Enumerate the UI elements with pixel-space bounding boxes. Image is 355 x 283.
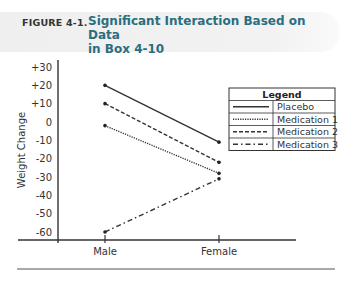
x-tick-label: Male (93, 246, 117, 257)
data-point (103, 230, 107, 234)
legend-label: Medication 1 (277, 114, 338, 125)
legend-title: Legend (262, 89, 301, 100)
data-point (103, 124, 107, 128)
y-tick-label: -10 (36, 135, 52, 146)
data-point (217, 161, 221, 165)
series-line-medication-1 (105, 126, 219, 174)
data-point (217, 172, 221, 176)
data-point (217, 177, 221, 181)
y-axis-label: Weight Change (16, 112, 27, 188)
legend-label: Medication 2 (277, 126, 338, 137)
y-tick-label: 0 (46, 117, 52, 128)
y-tick-label: +10 (31, 98, 52, 109)
legend-label: Medication 3 (277, 139, 338, 150)
series-line-medication-3 (105, 179, 219, 232)
data-point (103, 84, 107, 88)
series-line-placebo (105, 85, 219, 142)
x-tick-label: Female (201, 246, 237, 257)
y-tick-label: +20 (31, 80, 52, 91)
y-tick-label: -40 (36, 190, 52, 201)
line-chart: +30+20+100-10-20-30-40-50-60Weight Chang… (0, 0, 355, 283)
data-point (103, 102, 107, 106)
y-tick-label: -30 (36, 172, 52, 183)
legend-label: Placebo (277, 101, 314, 112)
y-tick-label: -50 (36, 208, 52, 219)
y-tick-label: -60 (36, 227, 52, 238)
y-tick-label: +30 (31, 62, 52, 73)
y-tick-label: -20 (36, 153, 52, 164)
data-point (217, 140, 221, 144)
